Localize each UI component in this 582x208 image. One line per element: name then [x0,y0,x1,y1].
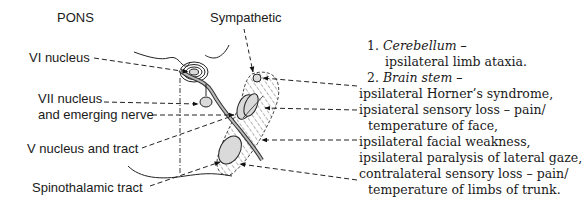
label-vii-nucleus-nerve: and emerging nerve [38,107,154,122]
finding-2-line: temperature of face, [368,118,498,134]
pons-title: PONS [57,10,94,25]
finding-1-line: ipsilateral limb ataxia. [385,54,527,70]
label-vii-nucleus: VII nucleus [38,91,102,106]
brain-stem-heading: Brain stem – [383,70,463,85]
finding-2-heading: 2. Brain stem – [367,70,462,86]
finding-2-line: contralateral sensory loss – pain/ [359,166,568,182]
finding-2-line: temperature of limbs of trunk. [368,182,561,198]
label-v-nucleus: V nucleus and tract [27,141,138,156]
cerebellum-heading: Cerebellum – [383,38,467,53]
finding-1-heading: 1. Cerebellum – [367,38,467,54]
label-vi-nucleus: VI nucleus [29,50,90,65]
label-spinothalamic: Spinothalamic tract [32,180,143,195]
finding-2-line: ipsilateral facial weakness, [359,134,531,150]
finding-2-line: ipsiateral sensory loss – pain/ [359,102,546,118]
sympathetic-fibres-icon [253,74,261,82]
finding-2-line: ipsilateral paralysis of lateral gaze, [359,150,582,166]
finding-2-line: ipsilateral Horner’s syndrome, [359,86,553,102]
leader-lines-left [94,58,234,186]
label-sympathetic: Sympathetic [210,10,282,25]
